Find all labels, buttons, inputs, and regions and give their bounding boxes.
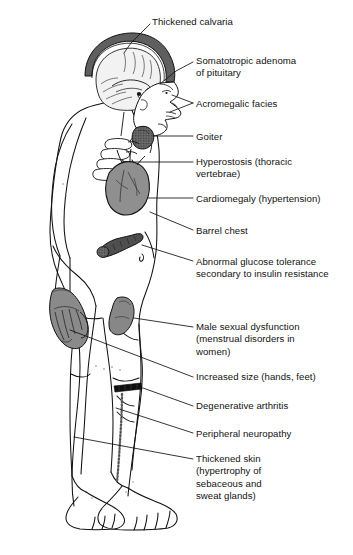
label-goiter: Goiter	[196, 131, 222, 143]
label-male-sexual-dysfunction: Male sexual dysfunction (menstrual disor…	[196, 321, 300, 358]
leader-male-dysfunction	[134, 318, 193, 327]
label-hyperostosis: Hyperostosis (thoracic vertebrae)	[196, 156, 292, 181]
genitalia	[109, 297, 134, 335]
thyroid-mass	[132, 126, 154, 149]
label-thickened-calvaria: Thickened calvaria	[152, 16, 233, 28]
label-degenerative-arthritis: Degenerative arthritis	[196, 400, 288, 412]
pancreas	[97, 234, 143, 258]
label-abnormal-glucose-tolerance: Abnormal glucose tolerance secondary to …	[196, 256, 329, 281]
leg-nerve	[117, 394, 122, 482]
label-increased-size-hands-feet: Increased size (hands, feet)	[196, 371, 316, 383]
leader-glucose	[142, 245, 193, 261]
label-peripheral-neuropathy: Peripheral neuropathy	[196, 428, 291, 440]
leader-acromegalic-facies	[172, 95, 193, 103]
label-somatotropic-adenoma: Somatotropic adenoma of pituitary	[196, 55, 296, 80]
label-barrel-chest: Barrel chest	[196, 225, 248, 237]
acromegaly-diagram: Thickened calvaria Somatotropic adenoma …	[0, 0, 353, 555]
label-cardiomegaly: Cardiomegaly (hypertension)	[196, 193, 321, 205]
label-thickened-skin: Thickened skin (hypertrophy of sebaceous…	[196, 453, 262, 503]
label-acromegalic-facies: Acromegalic facies	[196, 98, 277, 110]
leader-degenerative	[143, 388, 193, 406]
knee-joint	[114, 383, 142, 392]
hand	[50, 288, 89, 349]
